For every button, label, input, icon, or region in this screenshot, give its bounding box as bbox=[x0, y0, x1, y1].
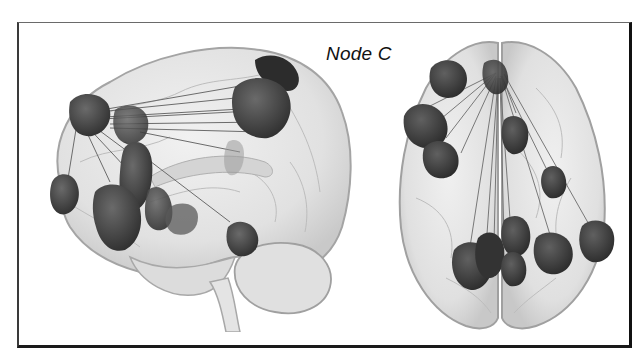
panel-label: Node C bbox=[326, 43, 392, 65]
node-prefrontal bbox=[113, 105, 148, 144]
brainstem-shape bbox=[210, 278, 240, 332]
node-right-occipital-b bbox=[501, 252, 526, 286]
axial-brain-view bbox=[386, 28, 616, 338]
sagittal-brain-view bbox=[30, 32, 370, 332]
node-right-occipital-a bbox=[501, 216, 530, 256]
node-left-frontal bbox=[430, 60, 467, 98]
node-right-lateral-temporal bbox=[579, 221, 614, 263]
node-left-occipital-b bbox=[475, 233, 504, 279]
